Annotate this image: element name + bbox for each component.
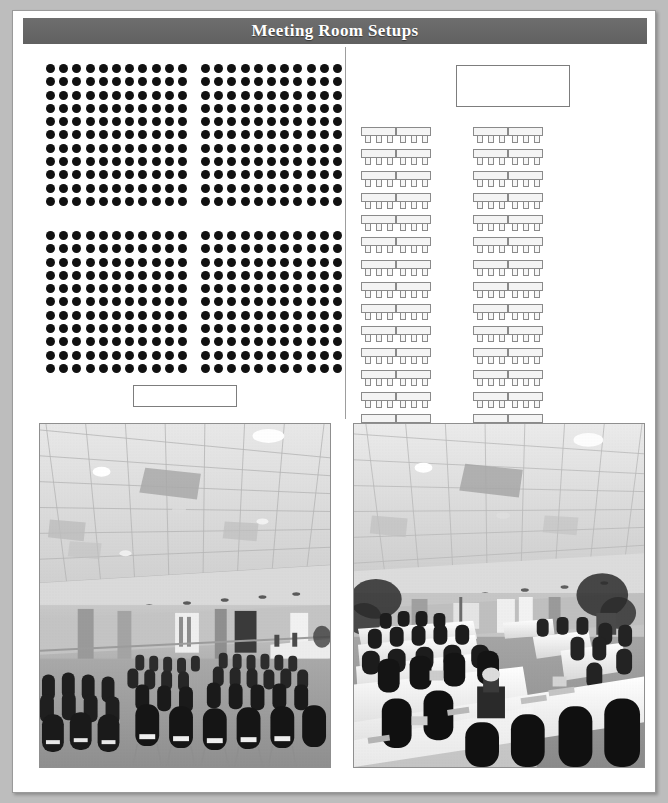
chair (534, 158, 540, 165)
chair (387, 202, 393, 209)
chair (365, 335, 371, 342)
chair-row (397, 269, 430, 277)
seat-dot (333, 197, 342, 206)
seat-dot (178, 184, 187, 193)
seat-dot (178, 231, 187, 240)
chair-row (509, 136, 542, 144)
seat-dot (267, 197, 276, 206)
chair (512, 202, 518, 209)
seat-dot (333, 284, 342, 293)
seat-dot (227, 284, 236, 293)
seat-dot (59, 130, 68, 139)
seat-dot (138, 64, 147, 73)
seat-dot (320, 77, 329, 86)
chair-row (509, 291, 542, 299)
seat-dot (72, 231, 81, 240)
seat-dot (178, 284, 187, 293)
chair (387, 357, 393, 364)
seat-dot (293, 64, 302, 73)
chair (477, 313, 483, 320)
seat-dot (227, 91, 236, 100)
table-group (473, 193, 544, 214)
chair (477, 136, 483, 143)
chair (422, 335, 428, 342)
table-segment (396, 348, 431, 369)
seat-dot (280, 364, 289, 373)
seat-dot (227, 104, 236, 113)
seat-dot (46, 170, 55, 179)
seat-dot (280, 311, 289, 320)
seat-dot (125, 170, 134, 179)
table-top (508, 193, 543, 202)
seat-dot (307, 197, 316, 206)
seat-dot (165, 157, 174, 166)
seat-dot (293, 244, 302, 253)
seat-dot (241, 170, 250, 179)
chair (488, 224, 494, 231)
theater-setup-panel (23, 47, 344, 419)
seat-dot (165, 297, 174, 306)
chair (365, 291, 371, 298)
seat-dot (99, 337, 108, 346)
table-group (473, 171, 544, 192)
seat-dot (86, 77, 95, 86)
seat-dot (333, 77, 342, 86)
seat-dot (138, 104, 147, 113)
seat-dot (165, 77, 174, 86)
seat-dot (280, 130, 289, 139)
seat-dot (267, 117, 276, 126)
chair-row (397, 136, 430, 144)
table-top (396, 348, 431, 357)
seat-dot (86, 91, 95, 100)
chair (376, 158, 382, 165)
table-segment (361, 193, 396, 214)
seat-dot (254, 284, 263, 293)
table-top (361, 304, 396, 313)
chair (488, 269, 494, 276)
seat-dot (267, 157, 276, 166)
table-top (396, 237, 431, 246)
seat-dot (214, 324, 223, 333)
chair (422, 357, 428, 364)
table-segment (473, 127, 508, 148)
seat-dot (99, 351, 108, 360)
table-segment (473, 304, 508, 325)
chair (512, 379, 518, 386)
seat-dot (72, 364, 81, 373)
chair (365, 180, 371, 187)
seat-dot (307, 117, 316, 126)
seat-dot (125, 311, 134, 320)
chair-row (509, 313, 542, 321)
seat-dot (86, 104, 95, 113)
seat-dot (178, 117, 187, 126)
table-segment (396, 171, 431, 192)
table-group (361, 237, 432, 258)
seat-dot (307, 364, 316, 373)
chair-row (397, 224, 430, 232)
chair (512, 180, 518, 187)
seat-dot (125, 258, 134, 267)
seat-dot (254, 337, 263, 346)
seat-dot (46, 231, 55, 240)
chair (512, 246, 518, 253)
table-top (361, 260, 396, 269)
seat-dot (201, 64, 210, 73)
table-group (473, 215, 544, 236)
seat-dot (241, 91, 250, 100)
seat-dot (165, 351, 174, 360)
seat-dot (320, 271, 329, 280)
seat-dot (112, 337, 121, 346)
seat-dot (241, 184, 250, 193)
seat-dot (320, 337, 329, 346)
seat-dot (280, 184, 289, 193)
seat-dot (152, 258, 161, 267)
seat-dot (241, 231, 250, 240)
table-top (361, 326, 396, 335)
seat-dot (59, 77, 68, 86)
chair (523, 313, 529, 320)
seat-dot (178, 130, 187, 139)
seat-dot (307, 311, 316, 320)
table-segment (508, 370, 543, 391)
seat-dot (165, 144, 174, 153)
chair-row (509, 357, 542, 365)
